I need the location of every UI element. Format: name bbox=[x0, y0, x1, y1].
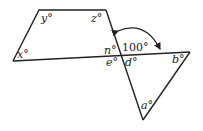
label-a: a° bbox=[141, 100, 153, 111]
label-y: y° bbox=[41, 13, 53, 24]
label-n: n° bbox=[104, 45, 117, 56]
label-b: b° bbox=[172, 54, 185, 65]
base-line bbox=[13, 52, 190, 61]
geometry-diagram: y° z° x° n° e° 100° d° b° a° bbox=[0, 0, 203, 131]
label-d: d° bbox=[125, 57, 138, 68]
label-z: z° bbox=[91, 13, 102, 24]
label-e: e° bbox=[106, 57, 118, 68]
label-x: x° bbox=[17, 49, 29, 60]
label-100: 100° bbox=[122, 42, 149, 53]
